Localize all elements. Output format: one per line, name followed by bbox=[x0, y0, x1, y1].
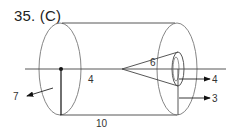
label-arrow-outer-radius: 3 bbox=[212, 93, 218, 104]
label-arrow-inner-radius: 4 bbox=[212, 74, 218, 85]
label-cylinder-length: 10 bbox=[96, 118, 108, 129]
cone-bottom-edge bbox=[122, 69, 178, 86]
label-cone-length: 6 bbox=[150, 57, 156, 68]
label-arrow-left: 7 bbox=[13, 91, 19, 102]
cylinder-cone-diagram: 4 6 7 4 3 10 bbox=[0, 0, 235, 133]
label-cylinder-radius: 4 bbox=[88, 74, 94, 85]
arrow-left-pointer bbox=[27, 88, 53, 96]
